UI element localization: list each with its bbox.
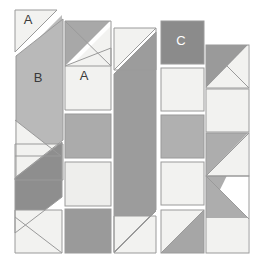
- label-a2: A: [80, 68, 89, 83]
- c2-tile-4-square[interactable]: [65, 162, 111, 206]
- label-c: C: [176, 33, 185, 48]
- column-2[interactable]: [65, 21, 111, 253]
- c4-tile-3-square[interactable]: [161, 115, 204, 158]
- column-4[interactable]: [161, 21, 204, 253]
- c2-tile-5-square[interactable]: [65, 209, 111, 253]
- c2-tile-3-square[interactable]: [65, 114, 111, 158]
- c1-tile-5-light[interactable]: [15, 210, 62, 253]
- c3-tile-3-light[interactable]: [114, 216, 156, 253]
- label-a1: A: [24, 12, 33, 27]
- c4-tile-4-square[interactable]: [161, 162, 204, 205]
- c4-tile-2-square[interactable]: [161, 68, 204, 111]
- c5-tile-2-square[interactable]: [206, 89, 249, 132]
- diagram-canvas: A B A C: [0, 0, 256, 266]
- tile-diagram: A B A C: [0, 0, 256, 266]
- column-3[interactable]: [114, 28, 156, 253]
- column-5[interactable]: [206, 45, 249, 253]
- label-b: B: [34, 70, 43, 85]
